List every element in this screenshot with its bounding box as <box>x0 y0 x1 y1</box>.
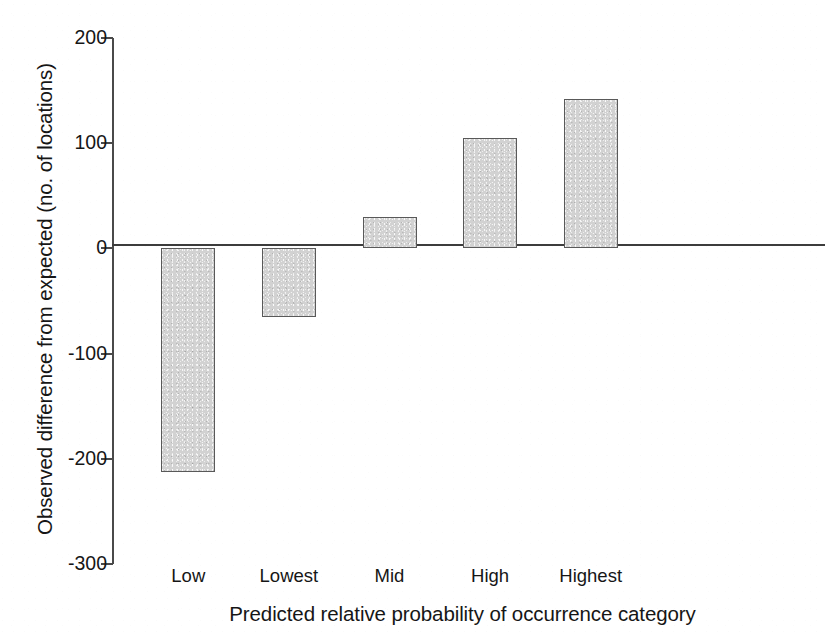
x-axis-tick-label-low: Low <box>171 565 205 587</box>
y-axis-tick-label: 200 <box>35 28 107 48</box>
bar-highest <box>564 99 618 248</box>
bar-low <box>161 248 215 472</box>
plot-area <box>0 0 825 638</box>
x-axis-tick-label-high: High <box>471 565 509 587</box>
bar-high <box>463 138 517 248</box>
bar-lowest <box>262 248 316 316</box>
y-axis-tick-label: -300 <box>35 554 107 574</box>
y-axis-tick-labels: 2001000-100-200-300 <box>0 0 107 638</box>
bar-mid <box>363 217 417 249</box>
y-axis-tick-label: -100 <box>35 344 107 364</box>
bar-chart-figure: Observed difference from expected (no. o… <box>0 0 825 638</box>
x-axis-tick-label-mid: Mid <box>375 565 405 587</box>
x-axis-tick-label-highest: Highest <box>559 565 622 587</box>
y-axis-spine <box>112 38 114 564</box>
y-axis-tick-label: -200 <box>35 449 107 469</box>
y-axis-tick-label: 0 <box>35 239 107 259</box>
x-axis-tick-label-lowest: Lowest <box>260 565 319 587</box>
y-axis-tick-label: 100 <box>35 133 107 153</box>
